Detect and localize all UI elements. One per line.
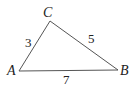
vertex-label-b: B bbox=[120, 63, 129, 78]
vertex-label-a: A bbox=[6, 63, 16, 78]
side-cb bbox=[50, 21, 118, 70]
triangle-diagram: A B C 3 5 7 bbox=[0, 0, 135, 86]
side-label-cb: 5 bbox=[88, 31, 95, 46]
side-ac bbox=[19, 21, 50, 71]
side-label-ab: 7 bbox=[63, 72, 70, 86]
side-label-ac: 3 bbox=[25, 35, 32, 50]
side-ab bbox=[19, 70, 118, 71]
vertex-label-c: C bbox=[43, 5, 53, 20]
